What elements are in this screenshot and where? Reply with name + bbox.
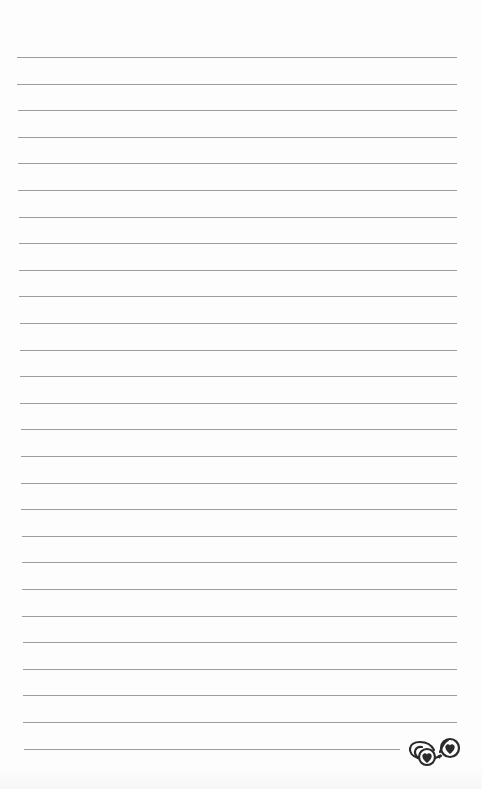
ruled-line (20, 376, 457, 377)
ruled-line (23, 642, 457, 643)
ruled-line (21, 456, 457, 457)
ruled-line (17, 84, 457, 85)
ruled-line (19, 296, 457, 297)
ruled-line (20, 350, 457, 351)
ruled-line (24, 749, 400, 750)
ruled-line (22, 589, 457, 590)
lined-page (0, 0, 482, 789)
ruled-line (21, 429, 457, 430)
bottom-shadow (0, 767, 482, 789)
ruled-line (21, 509, 457, 510)
ruled-line (23, 669, 457, 670)
ruled-line (20, 323, 457, 324)
ruled-line (18, 110, 457, 111)
ruled-line (20, 403, 457, 404)
swirl-hearts-flourish-icon (404, 736, 462, 768)
ruled-line (23, 722, 457, 723)
ruled-line (23, 695, 457, 696)
ruled-line (19, 270, 457, 271)
ruled-line (18, 137, 457, 138)
ruled-line (17, 57, 457, 58)
ruled-line (22, 536, 457, 537)
ruled-line (22, 562, 457, 563)
ruled-line (18, 190, 457, 191)
ruled-line (21, 483, 457, 484)
ruled-line (19, 217, 457, 218)
ruled-line (18, 163, 457, 164)
ruled-line (22, 616, 457, 617)
ruled-line (19, 243, 457, 244)
